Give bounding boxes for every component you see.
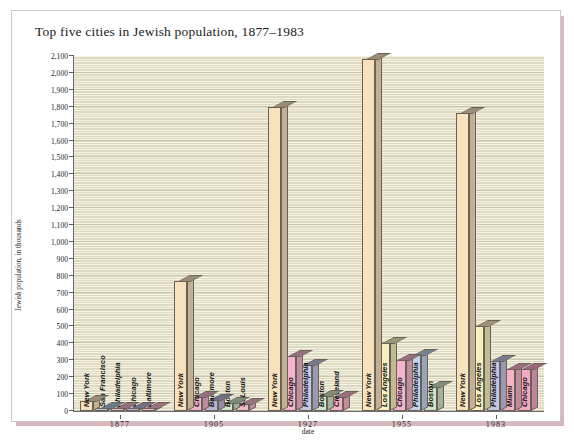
y-axis-tick	[69, 106, 74, 107]
y-axis-tick	[69, 325, 74, 326]
y-axis-tick	[69, 410, 74, 411]
y-axis-tick	[69, 173, 74, 174]
y-axis-tick-label: 100	[57, 390, 68, 399]
y-axis-tick-label: 400	[57, 339, 68, 348]
bar[interactable]: New York	[268, 107, 281, 411]
x-axis-title: date	[73, 427, 543, 436]
bar-side	[296, 352, 303, 411]
y-axis-tick-label: 800	[57, 271, 68, 280]
y-axis-tick	[69, 376, 74, 377]
bar-side	[469, 110, 476, 411]
bar-side	[421, 351, 428, 411]
bar-side	[515, 365, 522, 411]
bar-group: New YorkLos AngelesPhiladelphiaMiamiChic…	[74, 56, 544, 411]
bar-city-label: New York	[270, 373, 279, 407]
bar-face	[456, 113, 469, 411]
y-axis-tick	[69, 207, 74, 208]
y-axis-tick-label: 700	[57, 288, 68, 297]
bar-face	[362, 59, 375, 411]
chart-page: Top five cities in Jewish population, 18…	[0, 0, 574, 443]
y-axis-tick	[69, 89, 74, 90]
y-axis-tick	[69, 258, 74, 259]
x-axis-tick	[308, 415, 309, 419]
y-axis-tick-label: 1,300	[51, 187, 68, 196]
y-axis-tick-label: 1,400	[51, 170, 68, 179]
bar-side	[500, 357, 507, 411]
bar-side	[375, 56, 382, 411]
bar[interactable]: New York	[80, 401, 93, 411]
y-axis-title: Jewish population, in thousands	[15, 299, 23, 311]
y-axis-tick	[69, 55, 74, 56]
bar[interactable]: New York	[174, 281, 187, 411]
y-axis-tick-label: 2,000	[51, 68, 68, 77]
y-axis-tick-label: 600	[57, 305, 68, 314]
y-axis-tick	[69, 224, 74, 225]
bar-city-label: Philadelphia	[113, 362, 122, 407]
bar-city-label: New York	[176, 373, 185, 407]
y-axis-tick-label: 0	[64, 407, 68, 416]
plot-area: New YorkSan FranciscoPhiladelphiaChicago…	[73, 56, 544, 412]
bar-face	[268, 107, 281, 411]
y-axis-tick	[69, 123, 74, 124]
y-axis-tick-label: 200	[57, 373, 68, 382]
y-axis-tick-label: 1,000	[51, 237, 68, 246]
chart-card: Top five cities in Jewish population, 18…	[11, 10, 561, 422]
y-axis-tick	[69, 309, 74, 310]
y-axis-tick-label: 1,900	[51, 85, 68, 94]
y-axis-tick-label: 1,800	[51, 102, 68, 111]
y-axis-tick	[69, 190, 74, 191]
y-axis-tick-label: 1,500	[51, 153, 68, 162]
y-axis-tick-label: 900	[57, 254, 68, 263]
y-axis-tick	[69, 393, 74, 394]
y-axis-tick-label: 300	[57, 356, 68, 365]
y-axis-tick-label: 1,100	[51, 221, 68, 230]
y-axis-tick	[69, 241, 74, 242]
bar-city-label: New York	[458, 373, 467, 407]
x-axis-tick	[402, 415, 403, 419]
y-axis-tick	[69, 342, 74, 343]
y-axis-tick	[69, 359, 74, 360]
bar-side	[531, 365, 538, 411]
x-axis-tick	[496, 415, 497, 419]
bar[interactable]: New York	[456, 113, 469, 411]
y-axis-tick	[69, 292, 74, 293]
x-axis-tick	[120, 415, 121, 419]
y-axis-labels: 01002003004005006007008009001,0001,1001,…	[28, 56, 68, 411]
bar-side	[390, 340, 397, 411]
y-axis-tick	[69, 72, 74, 73]
y-axis-tick	[69, 275, 74, 276]
bar-side	[281, 103, 288, 411]
y-axis-tick-label: 1,200	[51, 204, 68, 213]
bar-side	[187, 277, 194, 411]
chart-title: Top five cities in Jewish population, 18…	[35, 24, 304, 40]
y-axis-tick	[69, 156, 74, 157]
x-axis-tick	[214, 415, 215, 419]
bar-side	[312, 362, 319, 411]
y-axis-tick-label: 1,600	[51, 136, 68, 145]
y-axis-tick-label: 2,100	[51, 52, 68, 61]
y-axis-tick-label: 1,700	[51, 119, 68, 128]
bar-side	[484, 323, 491, 411]
y-axis-tick-label: 500	[57, 322, 68, 331]
bar-side	[406, 357, 413, 411]
bar[interactable]: New York	[362, 59, 375, 411]
bar-city-label: New York	[82, 373, 91, 407]
y-axis-tick	[69, 140, 74, 141]
bar-city-label: New York	[364, 373, 373, 407]
